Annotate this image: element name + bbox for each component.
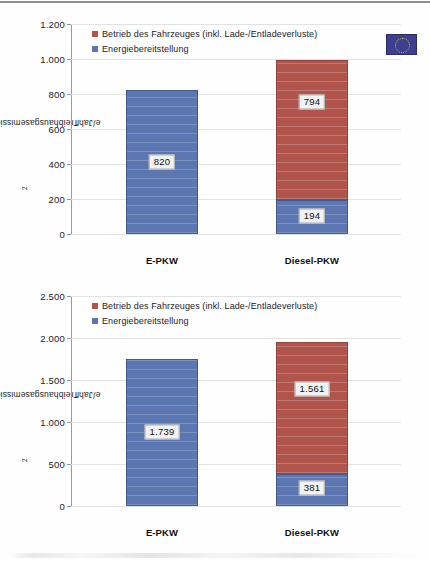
legend-label-energie-bottom: Energiebereitstellung (102, 316, 189, 326)
ytick-mark-bottom-2000 (67, 338, 71, 339)
bar-segment-betrieb-diesel-top[interactable] (276, 60, 348, 200)
gridline-top-800 (71, 94, 401, 95)
ytick-label-top-1000: 1.000 (40, 54, 65, 65)
legend-swatch-energie-icon (92, 318, 98, 324)
gridline-top-400 (71, 164, 401, 165)
eu-flag-icon-top (386, 34, 417, 55)
y-axis-line-bottom (71, 296, 72, 507)
gridline-top-600 (71, 129, 401, 130)
legend-label-betrieb-top: Betrieb des Fahrzeuges (inkl. Lade-/Entl… (102, 29, 317, 39)
legend-label-energie-top: Energiebereitstellung (102, 44, 189, 54)
ytick-mark-bottom-0 (67, 506, 71, 507)
gridline-bottom-2000 (71, 338, 401, 339)
ytick-mark-top-1200 (67, 24, 71, 25)
legend-bottom: Betrieb des Fahrzeuges (inkl. Lade-/Entl… (92, 299, 317, 329)
ytick-mark-top-400 (67, 164, 71, 165)
gridline-top-1000 (71, 59, 401, 60)
ytick-mark-top-200 (67, 199, 71, 200)
x-category-label-diesel-bottom: Diesel-PKW (276, 527, 348, 538)
ytick-label-top-1200: 1.200 (40, 19, 65, 30)
ytick-mark-top-600 (67, 129, 71, 130)
bar-epkw-top[interactable]: 820 (126, 90, 198, 234)
ytick-mark-bottom-1500 (67, 380, 71, 381)
gridline-bottom-1500 (71, 380, 401, 381)
chart-top: Treibhausgasemissionen in kg CO2e/Jahr 0… (0, 10, 430, 275)
y-axis-title-top: Treibhausgasemissionen in kg CO2e/Jahr (14, 10, 30, 235)
bar-epkw-bottom[interactable]: 1.739 (126, 359, 198, 506)
legend-item-energie-bottom[interactable]: Energiebereitstellung (92, 314, 317, 328)
ytick-mark-top-800 (67, 94, 71, 95)
ytick-label-bottom-1500: 1.500 (40, 375, 65, 386)
ytick-label-top-800: 800 (49, 89, 65, 100)
page-bottom-artifact (8, 553, 422, 558)
legend-item-betrieb-top[interactable]: Betrieb des Fahrzeuges (inkl. Lade-/Entl… (92, 27, 317, 41)
bar-diesel-bottom[interactable]: 1.561 381 (276, 342, 348, 506)
chart-bottom: Treibhausgasemissionen in kg CO2e/Jahr 0… (0, 282, 430, 547)
ytick-label-top-600: 600 (49, 124, 65, 135)
bar-segment-betrieb-diesel-bottom[interactable] (276, 342, 348, 474)
x-category-label-epkw-top: E-PKW (126, 255, 198, 266)
gridline-top-200 (71, 199, 401, 200)
legend-item-energie-top[interactable]: Energiebereitstellung (92, 42, 317, 56)
gridline-bottom-500 (71, 464, 401, 465)
ytick-label-top-200: 200 (49, 194, 65, 205)
y-axis-title-top-sub: 2 (21, 186, 28, 190)
eu-stars-icon-top (395, 38, 410, 53)
ytick-label-top-0: 0 (60, 229, 65, 240)
data-label-diesel-betrieb-top: 794 (299, 95, 325, 110)
ytick-label-bottom-1000: 1.000 (40, 417, 65, 428)
gridline-bottom-2500 (71, 296, 401, 297)
ytick-label-bottom-0: 0 (60, 501, 65, 512)
gridline-bottom-0 (71, 506, 401, 507)
data-label-diesel-betrieb-bottom: 1.561 (295, 382, 330, 397)
ytick-mark-bottom-2500 (67, 296, 71, 297)
x-category-label-epkw-bottom: E-PKW (126, 527, 198, 538)
data-label-epkw-top: 820 (149, 155, 175, 170)
data-label-diesel-energie-top: 194 (299, 209, 325, 224)
x-category-label-diesel-top: Diesel-PKW (276, 255, 348, 266)
ytick-mark-top-1000 (67, 59, 71, 60)
scanned-page: Treibhausgasemissionen in kg CO2e/Jahr 0… (0, 0, 430, 561)
legend-swatch-betrieb-icon (92, 31, 98, 37)
ytick-label-bottom-2000: 2.000 (40, 333, 65, 344)
y-axis-title-bottom: Treibhausgasemissionen in kg CO2e/Jahr (14, 282, 30, 507)
gridline-bottom-1000 (71, 422, 401, 423)
legend-swatch-betrieb-icon (92, 303, 98, 309)
legend-swatch-energie-icon (92, 46, 98, 52)
y-axis-title-bottom-sub: 2 (21, 458, 28, 462)
data-label-epkw-bottom: 1.739 (145, 425, 180, 440)
ytick-mark-top-0 (67, 234, 71, 235)
legend-top: Betrieb des Fahrzeuges (inkl. Lade-/Entl… (92, 27, 317, 57)
ytick-mark-bottom-500 (67, 464, 71, 465)
bar-diesel-top[interactable]: 794 194 (276, 60, 348, 234)
gridline-top-1200 (71, 24, 401, 25)
legend-item-betrieb-bottom[interactable]: Betrieb des Fahrzeuges (inkl. Lade-/Entl… (92, 299, 317, 313)
gridline-top-0 (71, 234, 401, 235)
ytick-label-bottom-500: 500 (49, 459, 65, 470)
page-top-rule (0, 1, 430, 3)
ytick-mark-bottom-1000 (67, 422, 71, 423)
ytick-label-top-400: 400 (49, 159, 65, 170)
data-label-diesel-energie-bottom: 381 (299, 481, 325, 496)
ytick-label-bottom-2500: 2.500 (40, 291, 65, 302)
legend-label-betrieb-bottom: Betrieb des Fahrzeuges (inkl. Lade-/Entl… (102, 301, 317, 311)
